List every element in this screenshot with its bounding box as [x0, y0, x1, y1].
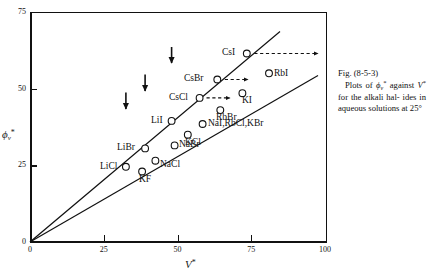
caption-text-line5: solutions at 25° [368, 103, 422, 113]
caption-phi-superscript: * [383, 79, 386, 86]
caption-body: Plots of ϕv* against V* for the alkali h… [338, 79, 426, 114]
point-csbr[interactable] [214, 76, 221, 83]
caption-figure-number: Fig. (8-5-3) [338, 68, 426, 79]
point-lii[interactable] [168, 118, 175, 125]
caption-v-superscript: * [423, 79, 426, 86]
caption-text-line3: the alkali hal- [351, 92, 400, 102]
point-nai-rbcl-kbr[interactable] [199, 121, 206, 128]
point-rbi[interactable] [266, 70, 273, 77]
x-tick-label-0: 0 [19, 245, 41, 254]
x-tick-label-25: 25 [93, 245, 115, 254]
label-csbr: CsBr [184, 74, 204, 84]
point-libr[interactable] [142, 145, 149, 152]
label-kcl: KCl [185, 138, 201, 148]
point-nabr[interactable] [171, 142, 178, 149]
x-tick-label-75: 75 [240, 245, 262, 254]
trend-line-upper [30, 32, 280, 243]
x-axis-title: V* [185, 258, 196, 270]
label-libr: LiBr [117, 143, 135, 153]
data-layer [30, 12, 327, 243]
point-csi[interactable] [243, 50, 250, 57]
point-cscl[interactable] [196, 95, 203, 102]
y-tick-label-25: 25 [4, 160, 26, 169]
x-axis-title-symbol: V [185, 258, 192, 270]
label-kf: KF [139, 175, 151, 185]
point-licl[interactable] [123, 163, 130, 170]
plot-area: 75 50 25 0 0 25 50 75 100 [30, 12, 327, 243]
x-axis-title-superscript: * [192, 258, 196, 267]
label-rbi: RbI [274, 69, 288, 79]
label-licl: LiCl [100, 162, 117, 172]
y-axis-title-superscript: * [11, 128, 15, 137]
x-tick-label-50: 50 [167, 245, 189, 254]
y-axis-title: ϕv* [2, 128, 15, 142]
caption-text-plots-of: Plots of [345, 80, 376, 90]
caption-text-for: for [338, 92, 348, 102]
figure-caption: Fig. (8-5-3) Plots of ϕv* against V* for… [338, 68, 426, 113]
label-rbbr: RbBr [216, 113, 237, 123]
point-nacl[interactable] [152, 157, 159, 164]
label-ki: KI [242, 96, 252, 106]
label-cscl: CsCl [169, 93, 188, 103]
x-tick-label-100: 100 [314, 245, 336, 254]
label-nacl: NaCl [160, 160, 180, 170]
label-csi: CsI [222, 48, 235, 58]
caption-text-against: against [390, 80, 418, 90]
figure-root: 75 50 25 0 0 25 50 75 100 [0, 0, 430, 275]
y-tick-label-50: 50 [4, 84, 26, 93]
label-lii: LiI [151, 116, 163, 126]
y-tick-label-75: 75 [4, 7, 26, 16]
